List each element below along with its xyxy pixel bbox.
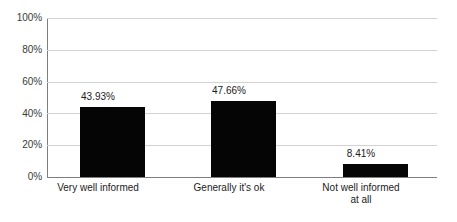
gridline-60	[47, 82, 437, 83]
y-tick-0: 0%	[2, 172, 42, 182]
gridline-baseline	[47, 177, 437, 178]
y-tick-60: 60%	[2, 77, 42, 87]
bar-value-label-2: 8.41%	[313, 148, 409, 159]
y-tick-40: 40%	[2, 109, 42, 119]
bar-value-label-0: 43.93%	[50, 91, 146, 102]
category-label-line1: Very well informed	[57, 182, 139, 193]
bar-not-well-informed-at-all[interactable]	[343, 164, 408, 177]
category-label-line1: Generally it's ok	[194, 182, 265, 193]
category-label-generally-its-ok: Generally it's ok	[161, 182, 297, 194]
bar-value-label-1: 47.66%	[181, 85, 277, 96]
bar-chart: 100% 80% 60% 40% 20% 0% 43.93% 47.66% 8.…	[0, 0, 457, 222]
y-tick-80: 80%	[2, 45, 42, 55]
category-label-very-well-informed: Very well informed	[30, 182, 166, 194]
category-label-line1: Not well informed	[322, 182, 399, 193]
y-tick-20: 20%	[2, 140, 42, 150]
bar-very-well-informed[interactable]	[80, 107, 145, 177]
category-label-line2: at all	[293, 194, 429, 206]
y-tick-100: 100%	[2, 13, 42, 23]
gridline-100	[47, 18, 437, 19]
bar-generally-its-ok[interactable]	[211, 101, 276, 177]
category-label-not-well-informed-at-all: Not well informed at all	[293, 182, 429, 206]
gridline-80	[47, 50, 437, 51]
